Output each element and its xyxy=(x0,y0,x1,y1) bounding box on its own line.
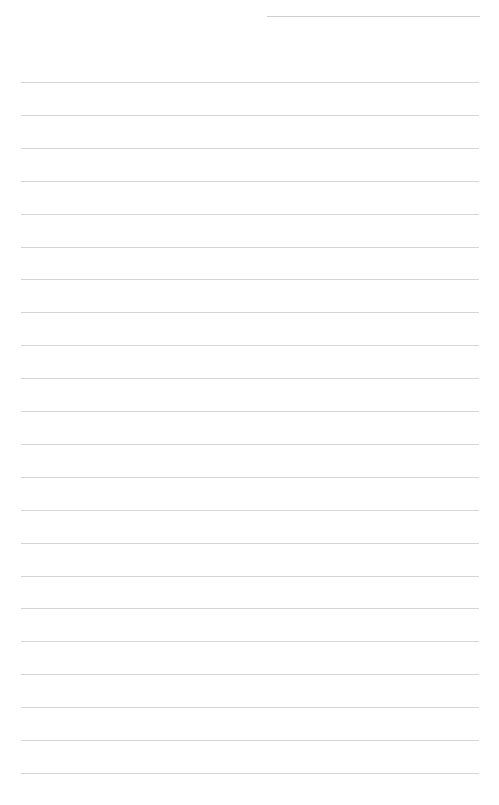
ruled-line xyxy=(21,576,479,577)
ruled-line xyxy=(21,411,479,412)
ruled-line xyxy=(21,707,479,708)
ruled-line xyxy=(21,477,479,478)
ruled-line xyxy=(21,312,479,313)
ruled-line xyxy=(21,510,479,511)
ruled-line xyxy=(21,115,479,116)
lined-paper-page xyxy=(0,0,499,805)
ruled-line xyxy=(21,148,479,149)
header-date-line xyxy=(267,16,480,17)
ruled-line xyxy=(21,247,479,248)
ruled-line xyxy=(21,444,479,445)
ruled-line xyxy=(21,641,479,642)
ruled-line xyxy=(21,181,479,182)
ruled-line xyxy=(21,740,479,741)
ruled-line xyxy=(21,773,479,774)
ruled-line xyxy=(21,345,479,346)
ruled-line xyxy=(21,674,479,675)
ruled-line xyxy=(21,543,479,544)
ruled-line xyxy=(21,279,479,280)
ruled-line xyxy=(21,82,479,83)
ruled-line xyxy=(21,608,479,609)
ruled-line xyxy=(21,214,479,215)
ruled-line xyxy=(21,378,479,379)
